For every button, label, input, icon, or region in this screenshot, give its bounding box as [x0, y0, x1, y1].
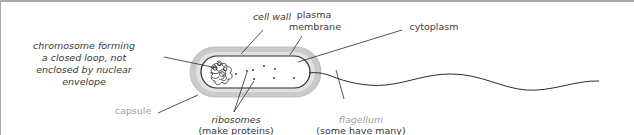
label-capsule: capsule: [111, 105, 155, 117]
label-plasma-membrane-line1: plasma: [289, 9, 339, 21]
label-chromosome-line4: envelope: [31, 76, 137, 88]
leader-capsule: [158, 95, 198, 113]
prokaryotic-cell-diagram: cell wall plasma membrane cytoplasm chro…: [0, 0, 634, 135]
label-cytoplasm: cytoplasm: [406, 21, 462, 33]
label-chromosome-line1: chromosome forming: [31, 40, 137, 52]
label-ribosomes-note: (make proteins): [193, 125, 279, 135]
label-chromosome-line2: a closed loop, not: [31, 52, 137, 64]
plasma-membrane-shape: [201, 56, 310, 88]
flagellum-shape: [309, 73, 599, 91]
label-flagellum-note: (some have many): [313, 125, 409, 135]
leader-cytoplasm: [298, 30, 402, 62]
label-plasma-membrane-line2: membrane: [289, 21, 339, 33]
leader-flagellum: [336, 70, 344, 99]
label-chromosome-line3: enclosed by nuclear: [31, 64, 137, 76]
